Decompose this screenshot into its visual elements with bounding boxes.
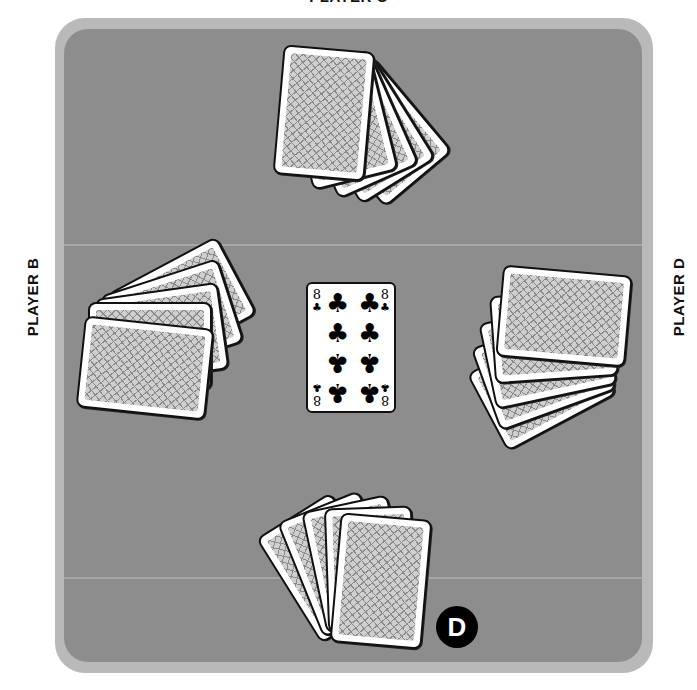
card-back-pattern [338,521,424,641]
club-icon: ♣ [358,380,381,406]
player-b-label: PLAYER B [24,258,41,336]
face-down-card[interactable] [330,512,433,650]
club-icon: ♣ [311,381,323,394]
center-card-eight-of-clubs[interactable]: 8♣ 8♣ 8♣ 8♣ ♣ ♣ ♣ ♣ ♣ ♣ ♣ ♣ [306,282,396,413]
table-divider-line [64,244,642,246]
player-d-label: PLAYER D [670,258,687,336]
card-back-pattern [281,53,367,173]
card-index-bottom: 8♣ [311,381,323,407]
card-rank: 8 [381,393,389,408]
card-rank: 8 [313,393,321,408]
card-rank: 8 [381,287,389,302]
card-rank: 8 [313,287,321,302]
club-icon: ♣ [311,301,323,314]
club-icon: ♣ [326,350,349,376]
club-icon: ♣ [358,350,381,376]
face-down-card[interactable] [273,44,376,182]
club-icon: ♣ [358,320,381,346]
face-down-card[interactable] [76,315,215,420]
card-index-top: 8♣ [311,288,323,314]
club-icon: ♣ [326,290,349,316]
card-back-pattern [504,273,624,359]
face-down-card[interactable] [495,265,633,368]
player-c-label: PLAYER C [0,0,697,5]
dealer-button: D [436,606,478,648]
club-icon: ♣ [326,380,349,406]
club-icon: ♣ [358,290,381,316]
club-icon: ♣ [326,320,349,346]
card-back-pattern [84,324,205,411]
